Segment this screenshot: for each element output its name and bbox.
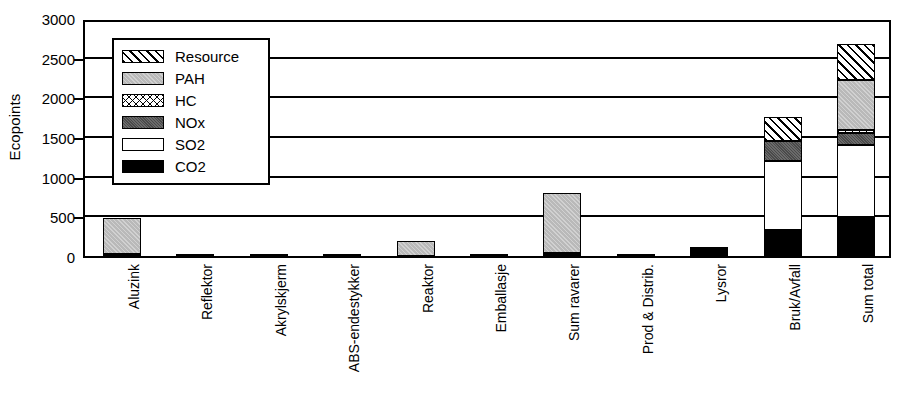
bar-group[interactable] — [543, 18, 581, 256]
ecopoints-stacked-bar-chart: Ecopoints 050010001500200025003000 Aluzi… — [0, 0, 908, 415]
bar-segment-co2[interactable] — [323, 254, 361, 256]
bar-segment-co2[interactable] — [837, 217, 875, 256]
legend-label: SO2 — [175, 137, 205, 152]
bar-segment-so2[interactable] — [764, 161, 802, 230]
y-tick-label-2500: 2500 — [20, 52, 75, 67]
x-label-abs-endestykker: ABS-endestykker — [346, 264, 362, 372]
bar-segment-resource[interactable] — [837, 44, 875, 80]
y-tick-label-1000: 1000 — [20, 171, 75, 186]
legend-swatch-pah-icon — [122, 72, 164, 85]
x-label-aluzink: Aluzink — [126, 264, 142, 309]
bar-group[interactable] — [690, 18, 728, 256]
bar-segment-co2[interactable] — [103, 254, 141, 256]
bar-segment-co2[interactable] — [470, 254, 508, 256]
bar-group[interactable] — [617, 18, 655, 256]
x-label-akrylskjerm: Akrylskjerm — [273, 264, 289, 336]
y-tick-label-2000: 2000 — [20, 91, 75, 106]
legend-item-nox[interactable]: NOx — [122, 111, 260, 133]
bar-segment-co2[interactable] — [617, 254, 655, 256]
bar-group[interactable] — [470, 18, 508, 256]
bar-segment-nox[interactable] — [764, 141, 802, 161]
legend-swatch-resource-icon — [122, 50, 164, 63]
y-tick-label-500: 500 — [20, 210, 75, 225]
bar-segment-hc[interactable] — [837, 130, 875, 133]
bar-segment-co2[interactable] — [543, 254, 581, 256]
bar-segment-resource[interactable] — [764, 117, 802, 141]
bar-segment-co2[interactable] — [250, 254, 288, 256]
legend-item-so2[interactable]: SO2 — [122, 133, 260, 155]
y-tick-mark-500 — [74, 217, 83, 219]
bar-segment-pah[interactable] — [397, 241, 435, 256]
bar-segment-co2[interactable] — [690, 247, 728, 256]
bar-segment-nox[interactable] — [837, 133, 875, 145]
legend-label: Resource — [175, 49, 239, 64]
legend-swatch-so2-icon — [122, 138, 164, 151]
bar-group[interactable] — [764, 18, 802, 256]
legend-swatch-co2-icon — [122, 160, 164, 173]
y-tick-mark-2500 — [74, 59, 83, 61]
legend-item-resource[interactable]: Resource — [122, 45, 260, 67]
x-label-lysror: Lysror — [713, 264, 729, 302]
legend-item-co2[interactable]: CO2 — [122, 155, 260, 177]
bar-group[interactable] — [323, 18, 361, 256]
x-label-reflektor: Reflektor — [199, 264, 215, 320]
y-tick-label-3000: 3000 — [20, 12, 75, 27]
bar-segment-pah[interactable] — [543, 193, 581, 254]
x-label-sum-total: Sum total — [860, 264, 876, 323]
legend-label: NOx — [175, 115, 205, 130]
y-tick-mark-1500 — [74, 138, 83, 140]
legend-swatch-hc-icon — [122, 94, 164, 107]
bar-segment-pah[interactable] — [103, 218, 141, 254]
x-label-prod-distrib: Prod & Distrib. — [640, 264, 656, 354]
bar-segment-pah[interactable] — [837, 80, 875, 130]
x-label-reaktor: Reaktor — [420, 264, 436, 313]
y-tick-mark-1000 — [74, 178, 83, 180]
legend-label: PAH — [175, 71, 205, 86]
bar-segment-co2[interactable] — [764, 230, 802, 256]
x-label-emballasje: Emballasje — [493, 264, 509, 332]
bar-group[interactable] — [837, 18, 875, 256]
legend-item-hc[interactable]: HC — [122, 89, 260, 111]
y-tick-label-1500: 1500 — [20, 131, 75, 146]
bar-segment-so2[interactable] — [837, 145, 875, 217]
y-tick-mark-2000 — [74, 98, 83, 100]
chart-legend: ResourcePAHHCNOxSO2CO2 — [112, 38, 270, 185]
legend-label: HC — [175, 93, 197, 108]
bar-group[interactable] — [397, 18, 435, 256]
bar-segment-co2[interactable] — [176, 254, 214, 256]
legend-label: CO2 — [175, 159, 206, 174]
legend-swatch-nox-icon — [122, 116, 164, 129]
legend-item-pah[interactable]: PAH — [122, 67, 260, 89]
x-label-sum-ravarer: Sum ravarer — [566, 264, 582, 341]
x-label-bruk-avfall: Bruk/Avfall — [787, 264, 803, 331]
y-tick-label-0: 0 — [20, 250, 75, 265]
